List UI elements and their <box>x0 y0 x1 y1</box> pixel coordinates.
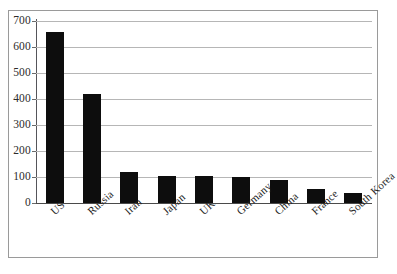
x-tick-label-russia: Russia <box>85 188 116 217</box>
x-tick-label-japan: Japan <box>160 191 187 217</box>
x-tick-label-iran: Iran <box>122 196 144 217</box>
x-tick-label-germany: Germany <box>234 180 273 217</box>
x-tick-label-us: US <box>48 198 67 217</box>
x-tick-label-south-korea: South Korea <box>346 170 397 217</box>
x-tick-label-france: France <box>309 187 340 217</box>
x-tick-label-uk: UK <box>197 197 217 217</box>
x-tick-label-china: China <box>272 190 300 217</box>
